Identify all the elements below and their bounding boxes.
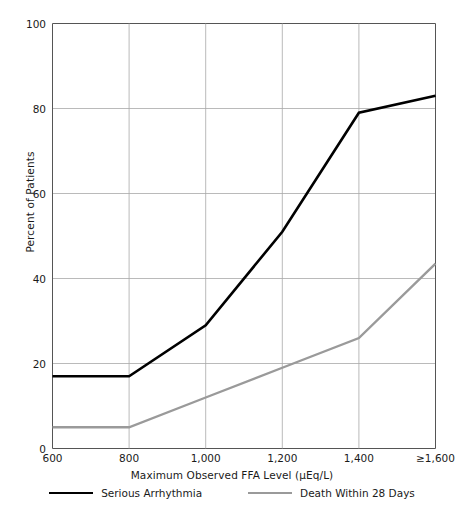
legend-item-serious-arrhythmia: Serious Arrhythmia [49,487,202,499]
x-axis-title: Maximum Observed FFA Level (μEq/L) [0,469,464,481]
legend-label-primary: Serious Arrhythmia [101,487,202,499]
plot-area [0,0,464,512]
x-axis-tick-label: 1,000 [191,452,221,464]
legend-line-icon-secondary [248,492,292,494]
chart-figure: Percent of Patients 020406080100 6008001… [0,0,464,512]
x-axis-tick-label: ≥1,600 [416,452,455,464]
legend-label-secondary: Death Within 28 Days [300,487,415,499]
x-axis-tick-label: 1,200 [267,452,297,464]
x-axis-tick-label: 800 [119,452,139,464]
series-line-secondary [53,264,436,428]
legend-line-icon-primary [49,492,93,494]
legend-item-death-within-28-days: Death Within 28 Days [248,487,415,499]
x-axis-tick-label: 1,400 [344,452,374,464]
series-line-primary [53,96,436,377]
chart-legend: Serious Arrhythmia Death Within 28 Days [0,487,464,499]
x-axis-tick-label: 600 [42,452,62,464]
